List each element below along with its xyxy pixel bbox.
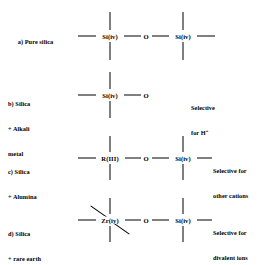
row-d-atom-zr: Zr(iv) bbox=[100, 217, 119, 224]
row-d-label-line2: + rare earth bbox=[8, 255, 41, 263]
row-b-bond-terminal-left bbox=[78, 95, 96, 96]
diagram-row-b: b) Silica + Alkali metal Si(iv) O Select… bbox=[0, 64, 262, 126]
diagram-row-a: a) Pure silica Si(iv) O Si(iv) bbox=[0, 0, 262, 64]
row-a-bond-vert-up-si-right bbox=[183, 12, 184, 30]
row-c-bond-vert-down-si bbox=[183, 164, 184, 180]
row-b-bond-vert-up-si bbox=[110, 72, 111, 89]
row-c-atom-o: O bbox=[142, 155, 149, 162]
diagram-row-c: c) Silica + Alumina R(III) O Si(iv) Sele… bbox=[0, 126, 262, 188]
row-a-bond-terminal-left bbox=[78, 36, 96, 37]
row-a-atom-si-right: Si(iv) bbox=[174, 33, 192, 40]
row-a-atom-o: O bbox=[142, 33, 149, 40]
row-d-bond-vert-up-zr bbox=[110, 198, 111, 214]
row-d-atom-o: O bbox=[142, 217, 149, 224]
row-c-bond-o-si bbox=[152, 158, 169, 159]
row-a-atom-si-left: Si(iv) bbox=[101, 33, 119, 40]
row-a-bond-si-o bbox=[124, 36, 141, 37]
row-c-atom-r: R(III) bbox=[100, 155, 119, 162]
row-d-note-line2: divalent ions bbox=[213, 254, 248, 262]
row-a-bond-o-si bbox=[152, 36, 169, 37]
row-c-bond-vert-down-r bbox=[110, 164, 111, 180]
row-d-note-line1: Selective for bbox=[213, 229, 248, 237]
row-c-bond-terminal-left bbox=[78, 158, 96, 159]
row-d-bond-vert-down-zr bbox=[110, 226, 111, 242]
row-d-bond-vert-down-si bbox=[183, 226, 184, 242]
row-d-bond-o-si bbox=[152, 220, 169, 221]
row-c-bond-vert-up-si bbox=[183, 136, 184, 152]
row-b-structure: Si(iv) O bbox=[0, 64, 262, 126]
row-d-bond-vert-up-si bbox=[183, 198, 184, 214]
row-d-atom-si: Si(iv) bbox=[174, 217, 192, 224]
row-b-atom-o: O bbox=[142, 92, 149, 99]
row-a-bond-vert-up-si-left bbox=[110, 12, 111, 30]
row-a-structure: Si(iv) O Si(iv) bbox=[0, 0, 262, 64]
row-c-bond-terminal-right bbox=[197, 158, 212, 159]
row-d-note: Selective for divalent ions bbox=[213, 213, 248, 265]
row-d-bond-terminal-left bbox=[78, 220, 96, 221]
row-c-bond-r-o bbox=[125, 158, 141, 159]
row-c-atom-si: Si(iv) bbox=[174, 155, 192, 162]
row-a-bond-vert-down-si-left bbox=[110, 42, 111, 60]
diagram-row-d: d) Silica + rare earth Zr(iv) O Si(iv) S… bbox=[0, 188, 262, 256]
row-b-note-line1: Selective bbox=[191, 104, 215, 112]
row-a-bond-vert-down-si-right bbox=[183, 42, 184, 60]
row-c-note-line1: Selective for bbox=[213, 167, 248, 175]
row-c-bond-vert-up-r bbox=[110, 136, 111, 152]
row-b-bond-vert-down-si bbox=[110, 101, 111, 118]
row-d-bond-terminal-right bbox=[197, 220, 212, 221]
row-b-bond-si-o bbox=[124, 95, 141, 96]
row-a-bond-terminal-right bbox=[197, 36, 215, 37]
row-d-bond-zr-o bbox=[125, 220, 141, 221]
row-b-atom-si: Si(iv) bbox=[101, 92, 119, 99]
